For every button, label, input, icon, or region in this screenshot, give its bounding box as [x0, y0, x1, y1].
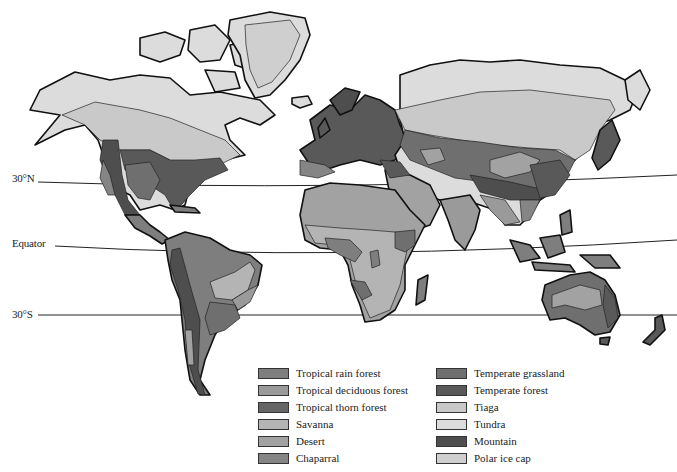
latitude-label-equator: Equator — [12, 237, 45, 249]
south-america — [165, 232, 262, 395]
legend-label: Tropical thorn forest — [296, 401, 387, 413]
legend-item-desert: Desert — [258, 432, 325, 450]
swatch-tropical-rain-forest — [258, 368, 289, 379]
swatch-tiaga — [436, 402, 467, 413]
legend-label: Savanna — [296, 418, 333, 430]
swatch-chaparral — [258, 453, 289, 464]
legend-label: Temperate forest — [474, 384, 548, 396]
legend-item-temperate-grassland: Temperate grassland — [436, 364, 565, 382]
legend-item-polar-ice-cap: Polar ice cap — [436, 449, 531, 467]
legend-item-tundra: Tundra — [436, 415, 505, 433]
legend-item-chaparral: Chaparral — [258, 449, 339, 467]
legend-item-mountain: Mountain — [436, 432, 517, 450]
legend-item-temperate-forest: Temperate forest — [436, 381, 548, 399]
swatch-tropical-deciduous-forest — [258, 385, 289, 396]
legend-label: Chaparral — [296, 452, 339, 464]
north-america — [30, 25, 275, 244]
australia — [542, 272, 620, 345]
iceland — [292, 96, 312, 108]
latitude-label-30n: 30°N — [12, 172, 35, 184]
legend-label: Tropical deciduous forest — [296, 384, 408, 396]
legend-label: Mountain — [474, 435, 517, 447]
legend-label: Tropical rain forest — [296, 367, 381, 379]
legend-label: Desert — [296, 435, 325, 447]
swatch-savanna — [258, 419, 289, 430]
legend-item-tiaga: Tiaga — [436, 398, 499, 416]
legend-item-tropical-rain-forest: Tropical rain forest — [258, 364, 381, 382]
legend-item-tropical-thorn-forest: Tropical thorn forest — [258, 398, 387, 416]
swatch-temperate-grassland — [436, 368, 467, 379]
swatch-tundra — [436, 419, 467, 430]
legend-item-savanna: Savanna — [258, 415, 333, 433]
legend-label: Tiaga — [474, 401, 499, 413]
swatch-polar-ice-cap — [436, 453, 467, 464]
legend-label: Temperate grassland — [474, 367, 565, 379]
swatch-desert — [258, 436, 289, 447]
legend-label: Tundra — [474, 418, 505, 430]
legend: Tropical rain forest Tropical deciduous … — [258, 364, 598, 472]
swatch-temperate-forest — [436, 385, 467, 396]
latitude-label-30s: 30°S — [12, 308, 33, 320]
swatch-tropical-thorn-forest — [258, 402, 289, 413]
swatch-mountain — [436, 436, 467, 447]
greenland — [228, 12, 310, 98]
legend-item-tropical-deciduous-forest: Tropical deciduous forest — [258, 381, 408, 399]
legend-label: Polar ice cap — [474, 452, 531, 464]
new-zealand — [643, 315, 665, 345]
